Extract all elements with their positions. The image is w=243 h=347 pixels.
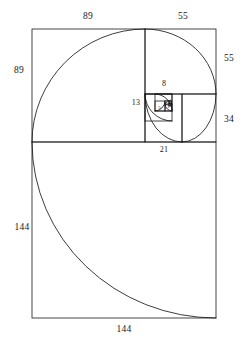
square-outlines (32, 29, 216, 318)
label-inner-8: 8 (162, 80, 166, 88)
label-top-55: 55 (178, 12, 188, 22)
arc-34 (182, 94, 216, 142)
label-bottom-144: 144 (117, 325, 132, 335)
square-89 (32, 29, 145, 142)
square-34 (182, 94, 216, 142)
square-144 (32, 142, 216, 318)
spiral-path-group (32, 29, 216, 318)
label-right-55: 55 (224, 54, 234, 64)
label-inner-5: 5 (158, 104, 161, 109)
label-inner-21: 21 (160, 146, 168, 154)
label-left-144: 144 (15, 223, 30, 233)
arc-89 (32, 29, 145, 142)
label-inner-13: 13 (132, 99, 140, 107)
label-top-89: 89 (83, 12, 93, 22)
label-inner-1b: 1 (169, 103, 171, 107)
arc-144 (32, 142, 216, 318)
label-left-89: 89 (14, 66, 24, 76)
square-55 (145, 29, 216, 94)
arc-55 (145, 29, 216, 94)
fibonacci-spiral-figure: 89 55 89 55 34 144 144 8 13 21 5 3 2 1 1 (0, 0, 243, 347)
fibonacci-spiral-canvas (0, 0, 243, 347)
label-inner-2: 2 (166, 101, 168, 105)
label-right-34: 34 (224, 115, 234, 125)
